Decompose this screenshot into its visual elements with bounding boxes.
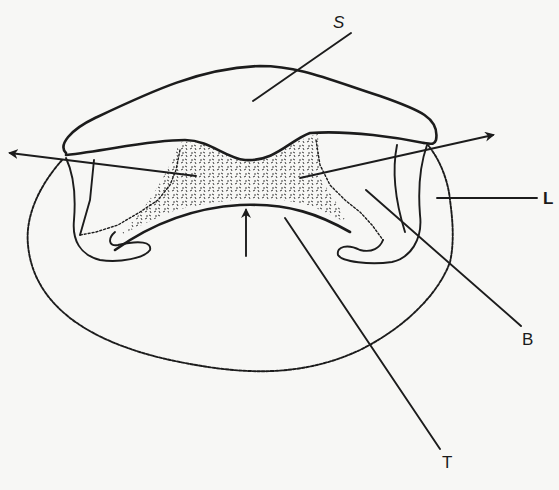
diagram-canvas: S L B T — [0, 0, 559, 490]
left-inner-wall — [80, 160, 94, 235]
label-b: B — [522, 331, 533, 348]
upper-membrane-outline — [64, 66, 437, 153]
left-axis-arrow — [10, 153, 196, 176]
cross-section-drawing — [0, 0, 559, 490]
leader-line-b — [366, 190, 521, 326]
inner-roof-line — [66, 132, 424, 160]
right-axis-arrow — [300, 135, 493, 178]
stippled-tissue — [120, 134, 345, 235]
label-s: S — [333, 14, 344, 31]
label-l: L — [543, 190, 553, 207]
leader-line-t — [285, 218, 440, 449]
left-hook-lobe — [66, 158, 150, 261]
label-t: T — [442, 454, 452, 471]
